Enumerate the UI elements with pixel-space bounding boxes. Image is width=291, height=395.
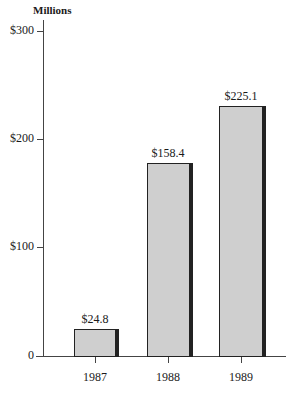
- y-axis: [43, 20, 44, 357]
- bar-1988: [147, 163, 190, 357]
- y-tick-label-300: $300: [2, 23, 34, 38]
- x-tick-1987: [95, 357, 96, 363]
- y-tick-100: [37, 247, 43, 248]
- x-tick-1989: [241, 357, 242, 363]
- x-tick-1988: [168, 357, 169, 363]
- y-tick-label-200: $200: [2, 131, 34, 146]
- bar-1987: [74, 329, 116, 357]
- bar-value-label-1989: $225.1: [211, 89, 271, 104]
- y-tick-label-0: 0: [2, 348, 34, 363]
- bar-value-label-1987: $24.8: [65, 312, 125, 327]
- x-tick-label-1988: 1988: [138, 370, 198, 385]
- y-tick-200: [37, 139, 43, 140]
- x-tick-label-1987: 1987: [65, 370, 125, 385]
- bar-value-label-1988: $158.4: [138, 146, 198, 161]
- y-axis-unit-label: Millions: [33, 4, 72, 16]
- y-tick-300: [37, 31, 43, 32]
- bar-1989: [219, 106, 263, 357]
- x-tick-label-1989: 1989: [211, 370, 271, 385]
- y-tick-label-100: $100: [2, 239, 34, 254]
